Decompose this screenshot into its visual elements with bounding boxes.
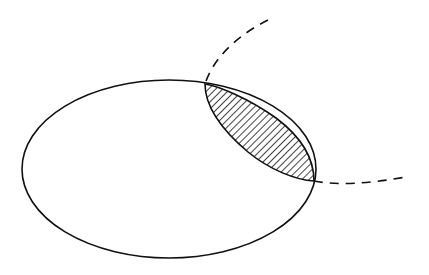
solid-ellipse (22, 80, 316, 258)
dashed-ellipse-upper (205, 20, 268, 84)
venn-diagram (0, 0, 429, 275)
diagram-canvas (0, 0, 429, 275)
dashed-ellipse-lower (314, 177, 406, 184)
